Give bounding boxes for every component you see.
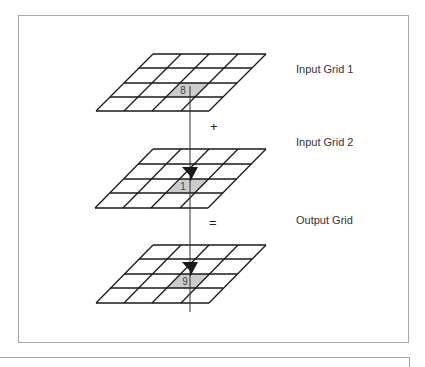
cell-value: 1	[180, 181, 186, 192]
plus-operator: +	[210, 119, 218, 134]
equals-operator: =	[209, 215, 217, 230]
cell-value: 8	[180, 85, 186, 96]
output-grid: 9	[96, 245, 266, 303]
input-grid-2-label: Input Grid 2	[296, 136, 353, 148]
input-grid-2: 1	[95, 149, 266, 208]
output-grid-label: Output Grid	[296, 214, 353, 226]
cell-value: 9	[182, 276, 188, 287]
input-grid-1: 8	[96, 54, 266, 111]
input-grid-1-label: Input Grid 1	[296, 63, 353, 75]
